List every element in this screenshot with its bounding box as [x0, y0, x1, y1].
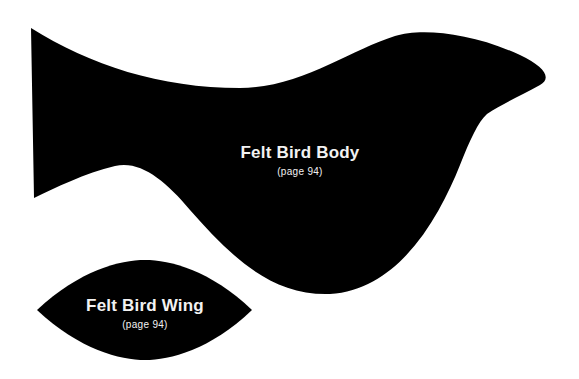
body-title: Felt Bird Body: [241, 143, 360, 163]
wing-page-reference: (page 94): [122, 319, 168, 330]
body-page-reference: (page 94): [277, 166, 323, 177]
pattern-canvas: [0, 0, 579, 379]
wing-title: Felt Bird Wing: [86, 296, 204, 316]
